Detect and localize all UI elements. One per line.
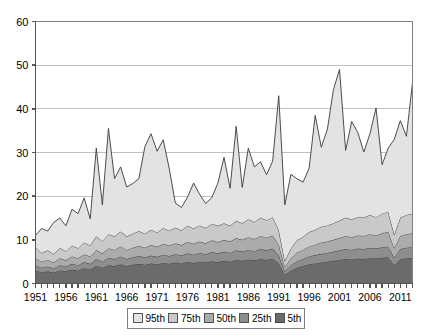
y-tick-label: 10 [16, 234, 28, 246]
x-tick-label: 2006 [358, 291, 382, 303]
x-tick-label: 1981 [206, 291, 230, 303]
x-tick-label: 1986 [237, 291, 261, 303]
x-tick-label: 1956 [54, 291, 78, 303]
legend-swatch-95th[interactable] [133, 314, 142, 323]
legend-swatch-75th[interactable] [169, 314, 178, 323]
legend-label-50th: 50th [217, 313, 236, 324]
y-tick-label: 30 [16, 147, 28, 159]
x-tick-label: 1991 [267, 291, 291, 303]
y-tick-label: 0 [22, 278, 28, 290]
x-tick-label: 1976 [176, 291, 200, 303]
y-tick-label: 50 [16, 59, 28, 71]
x-tick-label: 1996 [297, 291, 321, 303]
legend-label-95th: 95th [146, 313, 165, 324]
x-tick-label: 1966 [115, 291, 139, 303]
x-tick-label: 2001 [328, 291, 352, 303]
y-tick-label: 40 [16, 103, 28, 115]
chart-legend: 95th75th50th25th5th [127, 308, 304, 328]
percentile-stacked-area-chart: 0102030405060 19511956196119661971197619… [0, 0, 421, 335]
legend-label-5th: 5th [288, 313, 302, 324]
legend-swatch-50th[interactable] [204, 314, 213, 323]
x-tick-label: 1971 [145, 291, 169, 303]
legend-swatch-5th[interactable] [275, 314, 284, 323]
legend-label-25th: 25th [252, 313, 271, 324]
y-tick-label: 20 [16, 190, 28, 202]
y-tick-label: 60 [16, 16, 28, 28]
chart-canvas: 0102030405060 19511956196119661971197619… [0, 0, 421, 335]
x-tick-label: 1951 [24, 291, 48, 303]
legend-label-75th: 75th [181, 313, 200, 324]
x-tick-label: 2011 [389, 291, 412, 303]
x-tick-label: 1961 [85, 291, 109, 303]
legend-swatch-25th[interactable] [240, 314, 249, 323]
